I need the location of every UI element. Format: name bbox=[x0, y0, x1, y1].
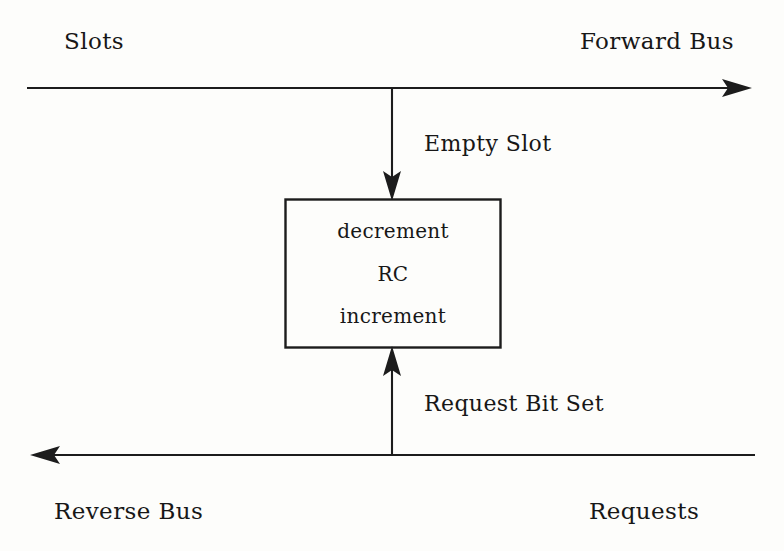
diagram-canvas: decrement RC increment Slots Forward Bus… bbox=[0, 0, 784, 551]
reverse-bus-label: Reverse Bus bbox=[54, 498, 203, 524]
diagram-drawing-layer bbox=[0, 0, 784, 551]
empty-slot-label: Empty Slot bbox=[424, 131, 551, 156]
request-bit-set-label: Request Bit Set bbox=[424, 391, 604, 416]
rc-box bbox=[286, 200, 501, 348]
requests-label: Requests bbox=[589, 498, 699, 524]
forward-bus-label: Forward Bus bbox=[580, 28, 734, 54]
slots-label: Slots bbox=[64, 28, 124, 54]
